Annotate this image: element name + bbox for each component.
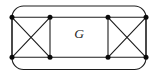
graph-vertex-tr: [144, 15, 149, 20]
graph-diagram: G: [0, 0, 158, 78]
graph-vertex-bl: [10, 55, 15, 60]
graph-vertex-bmr: [106, 55, 111, 60]
graph-vertex-tmr: [106, 15, 111, 20]
graph-vertex-tml: [48, 15, 53, 20]
graph-svg: G: [0, 0, 158, 78]
graph-vertex-tl: [10, 15, 15, 20]
graph-vertex-br: [144, 55, 149, 60]
graph-vertex-bml: [48, 55, 53, 60]
graph-label: G: [74, 26, 84, 41]
